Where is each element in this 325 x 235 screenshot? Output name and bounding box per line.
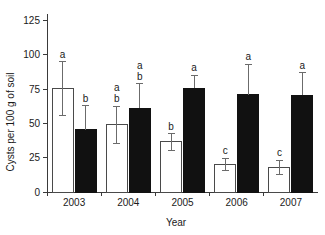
sig-label-filled-2003: b — [83, 93, 89, 104]
y-tick-label: 0 — [34, 187, 40, 198]
x-axis-title-group: Year — [166, 217, 187, 228]
bar-filled-2003[interactable] — [75, 130, 96, 192]
sig-label-open-2007: c — [277, 147, 282, 158]
x-tick-label-2006: 2006 — [226, 197, 249, 208]
x-axis-title: Year — [166, 217, 187, 228]
x-tick-label-2005: 2005 — [171, 197, 194, 208]
sig-label-open-2003: a — [60, 49, 66, 60]
y-tick-label: 125 — [23, 15, 40, 26]
bar-filled-2005[interactable] — [184, 88, 205, 192]
sig-label-open-2004: ab — [114, 82, 120, 104]
sig-label-filled-2005: a — [191, 62, 197, 73]
y-axis-title: Cysts per 100 g of soil — [5, 73, 16, 172]
y-tick-label: 50 — [29, 118, 41, 129]
significance-labels-layer: abababbacaca — [60, 49, 306, 159]
y-axis-ticks: 0255075100125 — [23, 15, 47, 197]
x-tick-label-2007: 2007 — [280, 197, 303, 208]
sig-label-filled-2004: ab — [137, 60, 143, 82]
x-tick-label-2004: 2004 — [117, 197, 140, 208]
y-axis-title-group: Cysts per 100 g of soil — [5, 73, 16, 172]
chart-container: Cysts per 100 g of soil 0255075100125 ab… — [0, 0, 325, 235]
bar-filled-2007[interactable] — [292, 95, 313, 192]
bar-chart: Cysts per 100 g of soil 0255075100125 ab… — [0, 0, 325, 235]
sig-label-filled-2007: a — [300, 60, 306, 71]
x-tick-label-2003: 2003 — [63, 197, 86, 208]
sig-label-filled-2006: a — [245, 51, 251, 62]
x-axis-ticks: 20032004200520062007 — [47, 192, 302, 208]
bar-filled-2004[interactable] — [129, 108, 150, 192]
sig-label-open-2005: b — [168, 121, 174, 132]
y-tick-label: 25 — [29, 152, 41, 163]
y-tick-label: 100 — [23, 49, 40, 60]
sig-label-open-2006: c — [223, 145, 228, 156]
y-tick-label: 75 — [29, 84, 41, 95]
bar-filled-2006[interactable] — [238, 95, 259, 192]
bars-layer — [52, 88, 313, 192]
